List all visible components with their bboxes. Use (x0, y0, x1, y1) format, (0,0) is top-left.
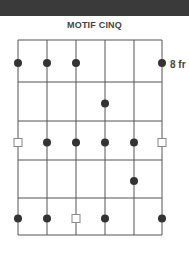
note-dot (72, 139, 80, 147)
note-dot (130, 177, 138, 185)
root-note-square (14, 139, 22, 147)
root-note-square (158, 139, 166, 147)
note-dot (130, 139, 138, 147)
note-dot (43, 139, 51, 147)
fretboard-grid (18, 40, 162, 235)
note-dot (72, 59, 80, 67)
note-dot (43, 215, 51, 223)
note-dot (14, 59, 22, 67)
root-note-square (72, 215, 80, 223)
note-dot (101, 100, 109, 108)
note-dot (43, 59, 51, 67)
note-dot (14, 215, 22, 223)
note-dot (158, 215, 166, 223)
note-dot (158, 59, 166, 67)
note-dot (101, 215, 109, 223)
fret-position-label: 8 fr (170, 59, 186, 70)
fretboard-diagram (0, 0, 189, 258)
note-dot (101, 139, 109, 147)
